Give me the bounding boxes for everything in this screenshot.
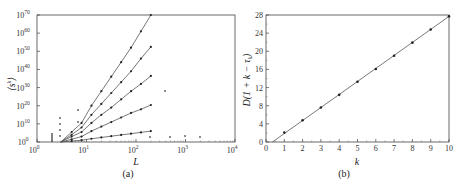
scatter-point [184, 135, 186, 137]
scatter-point [59, 129, 61, 131]
data-point [90, 105, 92, 107]
data-point [429, 28, 432, 31]
scatter-point [59, 135, 61, 137]
data-point [150, 75, 152, 77]
panel-b-series [272, 15, 450, 142]
data-point [100, 103, 102, 105]
panel-b: 012345678910 0481216202428 k (b) D(1 + k… [241, 11, 453, 180]
x-tick-label: 5 [356, 144, 360, 153]
panel-a-y-ticks: 1001010102010301040105010601070 [16, 9, 40, 147]
data-point [110, 76, 112, 78]
panel-a-caption: (a) [122, 168, 133, 180]
scatter-point [77, 121, 79, 123]
data-point [110, 135, 112, 137]
data-point [130, 133, 132, 135]
data-point [71, 135, 73, 137]
x-tick-label: 0 [264, 144, 268, 153]
scatter-point [169, 136, 171, 138]
data-point [130, 47, 132, 49]
data-point [100, 136, 102, 138]
data-point [110, 92, 112, 94]
figure: 100101102103104 100101010201030104010501… [0, 0, 460, 180]
data-point [130, 70, 132, 72]
data-point [338, 94, 341, 97]
data-point [150, 104, 152, 106]
x-tick-label: 6 [374, 144, 378, 153]
data-point [110, 106, 112, 108]
series-line [61, 76, 151, 142]
data-point [71, 140, 73, 142]
panel-b-ylabel: D(1 + k − τk) [241, 53, 253, 108]
y-tick-label: 12 [255, 84, 263, 93]
y-tick-label: 1060 [16, 27, 30, 38]
panel-a-series [59, 14, 201, 142]
data-point [140, 108, 142, 110]
panel-a-ylabel: ⟨sk⟩ [6, 77, 17, 91]
data-point [110, 121, 112, 123]
svg-text:D(1 + k − τk): D(1 + k − τk) [241, 53, 253, 108]
data-point [150, 14, 152, 16]
x-tick-label: 8 [410, 144, 414, 153]
y-tick-label: 1020 [16, 100, 30, 111]
x-tick-label: 101 [78, 144, 89, 155]
data-point [100, 125, 102, 127]
data-point [80, 139, 82, 141]
y-tick-label: 100 [18, 136, 29, 147]
data-point [140, 30, 142, 32]
series-line [61, 105, 151, 142]
data-point [140, 131, 142, 133]
series-line [61, 15, 151, 142]
y-tick-label: 0 [259, 138, 263, 147]
y-tick-label: 1050 [16, 45, 30, 56]
data-point [80, 135, 82, 137]
data-point [448, 15, 451, 18]
svg-text:⟨sk⟩: ⟨sk⟩ [6, 77, 17, 91]
panel-b-xlabel: k [355, 156, 360, 167]
panel-b-frame [266, 15, 449, 142]
x-tick-label: 100 [29, 144, 40, 155]
data-point [120, 98, 122, 100]
panel-b-y-ticks: 0481216202428 [255, 11, 269, 147]
panel-b-x-ticks: 012345678910 [264, 139, 453, 153]
data-point [120, 116, 122, 118]
data-point [100, 90, 102, 92]
x-tick-label: 10 [445, 144, 453, 153]
data-point [140, 83, 142, 85]
data-point [393, 55, 396, 58]
data-point [71, 131, 73, 133]
fit-line [272, 16, 449, 142]
y-tick-label: 16 [255, 65, 263, 74]
x-tick-label: 7 [392, 144, 396, 153]
scatter-point [77, 109, 79, 111]
data-point [375, 68, 378, 71]
data-point [90, 130, 92, 132]
y-tick-label: 20 [255, 47, 263, 56]
data-point [301, 119, 304, 122]
data-point [120, 134, 122, 136]
y-tick-label: 1070 [16, 9, 30, 20]
data-point [320, 106, 323, 109]
y-tick-label: 8 [259, 102, 263, 111]
scatter-point [149, 136, 151, 138]
data-point [100, 114, 102, 116]
data-point [120, 81, 122, 83]
panel-a-xlabel: L [132, 156, 139, 167]
data-point [80, 131, 82, 133]
data-point [120, 61, 122, 63]
data-point [150, 46, 152, 48]
x-tick-label: 102 [128, 144, 139, 155]
panel-a-x-ticks: 100101102103104 [29, 139, 238, 155]
panel-b-caption: (b) [338, 168, 350, 180]
data-point [130, 90, 132, 92]
panel-a-frame [37, 15, 235, 142]
y-tick-label: 24 [255, 29, 263, 38]
series-line [61, 47, 151, 142]
data-point [90, 138, 92, 140]
scatter-point [164, 90, 166, 92]
y-tick-label: 1040 [16, 63, 30, 74]
data-point [90, 122, 92, 124]
data-point [411, 41, 414, 44]
x-tick-label: 104 [227, 144, 238, 155]
x-tick-label: 3 [319, 144, 323, 153]
data-point [90, 114, 92, 116]
